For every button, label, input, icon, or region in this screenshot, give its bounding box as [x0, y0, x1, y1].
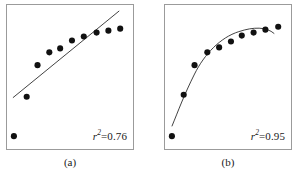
figure-root: r2=0.76 r2=0.95 (a) (b) — [0, 0, 303, 179]
data-point — [239, 33, 245, 39]
panel-caption-b: (b) — [164, 156, 292, 168]
data-point — [181, 92, 187, 98]
r-squared-label-b: r2=0.95 — [251, 128, 285, 142]
r-value: =0.76 — [101, 130, 127, 142]
data-point — [275, 24, 281, 30]
data-point — [105, 28, 111, 34]
linear-fit-line — [13, 11, 119, 98]
data-point — [251, 30, 257, 36]
data-point — [228, 38, 234, 44]
data-point — [57, 45, 63, 51]
plot-panel-a: r2=0.76 — [6, 4, 134, 150]
quadratic-fit-curve — [172, 28, 274, 126]
r-squared-label-a: r2=0.76 — [93, 128, 127, 142]
data-point — [34, 62, 40, 68]
panel-caption-a: (a) — [6, 156, 134, 168]
data-point — [117, 26, 123, 32]
data-point — [46, 49, 52, 55]
data-point — [191, 62, 197, 68]
data-point — [11, 133, 17, 139]
plot-panel-b: r2=0.95 — [164, 4, 292, 150]
data-point — [69, 37, 75, 43]
data-point — [262, 27, 268, 33]
data-point — [216, 44, 222, 50]
data-point — [24, 94, 30, 100]
data-point — [204, 49, 210, 55]
data-point — [169, 133, 175, 139]
data-point — [81, 34, 87, 40]
data-point — [94, 30, 100, 36]
r-value: =0.95 — [259, 130, 285, 142]
